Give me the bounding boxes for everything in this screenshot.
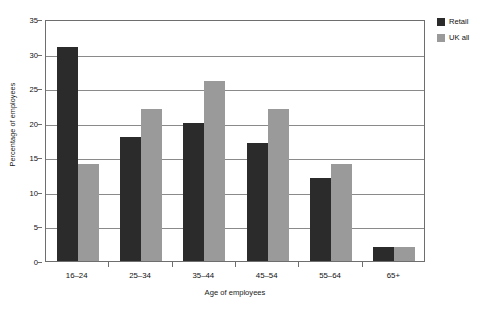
x-axis-title: Age of employees — [45, 288, 425, 297]
bar-chart: Percentage of employees 05101520253035 1… — [0, 0, 488, 311]
bar-uk-all — [331, 164, 352, 261]
bar-uk-all — [141, 109, 162, 261]
legend-swatch-retail-icon — [437, 18, 445, 26]
bar-uk-all — [78, 164, 99, 261]
y-axis-tick-mark — [37, 227, 42, 228]
x-axis-tick-mark — [298, 262, 299, 267]
bar-uk-all — [268, 109, 289, 261]
y-axis-tick-mark — [37, 193, 42, 194]
legend-swatch-uk-all-icon — [437, 34, 445, 42]
y-axis-tick-mark — [37, 124, 42, 125]
y-axis-tick-mark — [37, 262, 42, 263]
bar-retail — [247, 143, 268, 261]
bar-group — [373, 21, 415, 261]
y-axis-tick-mark — [37, 55, 42, 56]
legend-label-retail: Retail — [449, 17, 468, 26]
bar-retail — [310, 178, 331, 261]
bar-group — [247, 21, 289, 261]
x-axis-tick-mark — [362, 262, 363, 267]
y-axis-tick-mark — [37, 20, 42, 21]
x-axis-tick-label: 55–64 — [319, 271, 341, 280]
x-axis-tick-label: 45–54 — [256, 271, 278, 280]
x-axis-tick-mark — [108, 262, 109, 267]
plot-area — [45, 20, 425, 262]
legend-label-uk-all: UK all — [449, 33, 469, 42]
x-axis-tick-mark — [172, 262, 173, 267]
x-axis-tick-label: 35–44 — [192, 271, 214, 280]
x-axis-tick-mark — [235, 262, 236, 267]
bar-retail — [183, 123, 204, 261]
bar-retail — [373, 247, 394, 261]
bar-retail — [120, 137, 141, 261]
bar-group — [120, 21, 162, 261]
y-axis-tick-marks — [0, 20, 46, 262]
bar-uk-all — [204, 81, 225, 261]
y-axis-tick-mark — [37, 89, 42, 90]
y-axis-tick-mark — [37, 158, 42, 159]
legend-item-uk-all: UK all — [437, 33, 487, 42]
legend-item-retail: Retail — [437, 17, 487, 26]
bar-retail — [57, 47, 78, 261]
bar-uk-all — [394, 247, 415, 261]
bottom-caption — [0, 303, 488, 311]
x-axis-tick-label: 16–24 — [66, 271, 88, 280]
chart-legend: Retail UK all — [437, 17, 487, 49]
bars-layer — [46, 21, 424, 261]
bar-group — [57, 21, 99, 261]
x-axis-tick-label: 25–34 — [129, 271, 151, 280]
x-axis-tick-label: 65+ — [387, 271, 400, 280]
bar-group — [183, 21, 225, 261]
bar-group — [310, 21, 352, 261]
